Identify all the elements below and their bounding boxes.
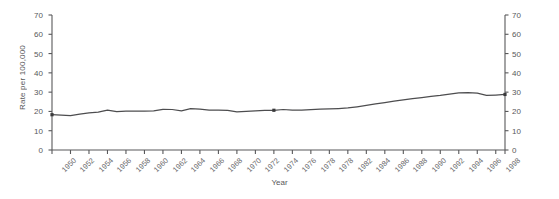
data-series-line xyxy=(52,93,505,116)
axes xyxy=(49,15,509,154)
data-point-markers xyxy=(50,93,506,116)
line-chart: Rate per 100,000 Year 010203040506070 01… xyxy=(0,0,559,199)
plot-area xyxy=(0,0,559,199)
